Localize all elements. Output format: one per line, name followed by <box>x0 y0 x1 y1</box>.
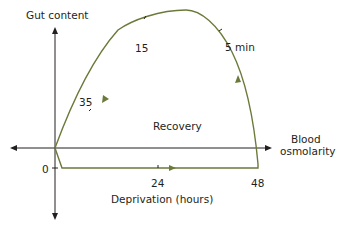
x-axis-label-line2: osmolarity <box>280 145 335 157</box>
time-label-15: 15 <box>135 42 148 54</box>
recovery-arrow-upper-icon <box>235 75 241 83</box>
y-axis-label: Gut content <box>26 9 88 21</box>
x-axis-left-arrow-icon <box>10 145 17 151</box>
time-label-48: 48 <box>251 177 264 189</box>
x-axis-right-arrow-icon <box>265 145 272 151</box>
time-label-0: 0 <box>42 163 49 175</box>
y-axis-down-arrow-icon <box>52 213 58 220</box>
recovery-path <box>55 10 258 164</box>
time-label-24: 24 <box>151 177 164 189</box>
recovery-arrow-lower-icon <box>102 95 109 103</box>
tick-5min <box>219 29 222 31</box>
time-label-5min: 5 min <box>225 41 255 53</box>
deprivation-arrow-icon <box>169 165 176 171</box>
deprivation-label: Deprivation (hours) <box>111 193 213 205</box>
tick-35 <box>89 109 91 111</box>
x-axis-label-line1: Blood <box>291 133 321 145</box>
time-label-35: 35 <box>79 96 92 108</box>
deprivation-path <box>55 148 258 168</box>
recovery-label: Recovery <box>153 120 202 132</box>
y-axis-up-arrow-icon <box>52 27 58 34</box>
